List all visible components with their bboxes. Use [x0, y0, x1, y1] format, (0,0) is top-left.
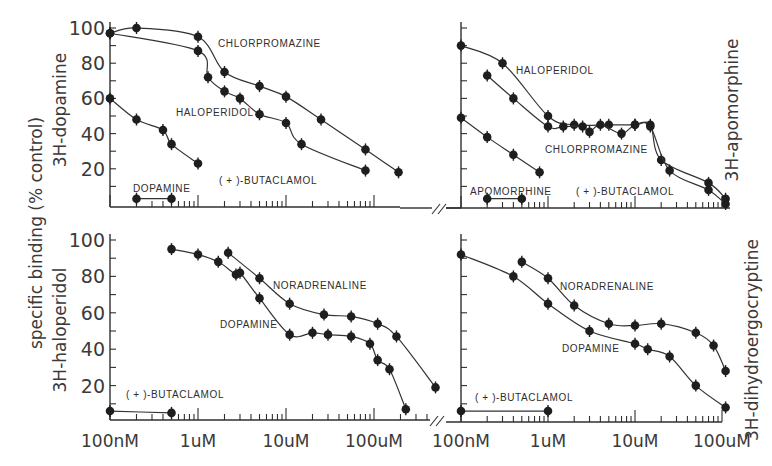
series-butaclamol: ( + )-BUTACLAMOL	[457, 392, 573, 417]
curve-label: DOPAMINE	[220, 319, 277, 330]
x-tick-label: 1uM	[180, 431, 216, 451]
axis-break-top	[432, 204, 446, 214]
data-point	[308, 329, 317, 338]
series-haloperidol: HALOPERIDOL	[106, 27, 370, 176]
curve-label: DOPAMINE	[133, 183, 190, 194]
data-point	[402, 405, 411, 414]
curve-label: ( + )-BUTACLAMOL	[126, 389, 224, 400]
data-point	[167, 409, 176, 418]
panel-top-right: 3H-apomorphineHALOPERIDOLCHLORPROMAZINE(…	[446, 22, 742, 210]
fit-curve	[522, 262, 726, 371]
data-point	[509, 94, 518, 103]
data-point	[570, 301, 579, 310]
curve-label: HALOPERIDOL	[176, 107, 254, 118]
data-point	[297, 140, 306, 149]
data-point	[167, 194, 176, 203]
curve-label: APOMORPHINE	[470, 186, 552, 197]
x-tick-label: 100uM	[345, 431, 403, 451]
data-point	[236, 268, 245, 277]
data-point	[657, 319, 666, 328]
data-point	[106, 29, 115, 38]
data-point	[596, 121, 605, 130]
panel-bottom-right: 100nM1uM10uM100uM3H-dihydroergocryptineN…	[432, 234, 762, 451]
curve-label: NORADRENALINE	[273, 280, 367, 291]
data-point	[709, 341, 718, 350]
data-point	[509, 150, 518, 159]
data-point	[631, 339, 640, 348]
data-point	[361, 145, 370, 154]
fit-curve	[487, 76, 725, 204]
panel-top-left: 100806040203H-dopamineCHLORPROMAZINEHALO…	[50, 17, 432, 208]
y-axis-title: specific binding (% control)	[26, 117, 46, 349]
data-point	[457, 41, 466, 50]
data-point	[224, 248, 233, 257]
data-point	[643, 345, 652, 354]
data-point	[721, 200, 730, 209]
data-point	[282, 119, 291, 128]
data-point	[483, 71, 492, 80]
data-point	[194, 159, 203, 168]
data-point	[255, 82, 264, 91]
data-point	[347, 312, 356, 321]
curve-label: NORADRENALINE	[560, 281, 654, 292]
data-point	[457, 113, 466, 122]
data-point	[544, 407, 553, 416]
data-point	[373, 319, 382, 328]
y-tick-label: 80	[81, 265, 105, 287]
curve-label: DOPAMINE	[562, 343, 619, 354]
data-point	[167, 245, 176, 254]
radioligand-label: 3H-dihydroergocryptine	[742, 239, 762, 441]
radioligand-label: 3H-apomorphine	[722, 39, 742, 182]
data-point	[692, 329, 701, 338]
data-point	[236, 94, 245, 103]
data-point	[194, 33, 203, 42]
panel-bottom-left: 10080604020100nM1uM10uM100uM3H-haloperid…	[50, 229, 440, 451]
data-point	[220, 87, 229, 96]
data-point	[320, 310, 329, 319]
data-point	[721, 403, 730, 412]
fit-curve	[461, 118, 540, 173]
data-point	[324, 330, 333, 339]
series-chlorpromazine: CHLORPROMAZINE	[106, 22, 403, 178]
curve-label: ( + )-BUTACLAMOL	[475, 392, 573, 403]
data-point	[605, 319, 614, 328]
data-point	[665, 352, 674, 361]
data-point	[194, 47, 203, 56]
y-tick-label: 100	[69, 229, 105, 251]
data-point	[214, 258, 223, 267]
data-point	[132, 24, 141, 33]
data-point	[394, 168, 403, 177]
radioligand-label: 3H-haloperidol	[50, 268, 70, 393]
data-point	[373, 356, 382, 365]
data-point	[285, 330, 294, 339]
data-point	[106, 407, 115, 416]
data-point	[585, 128, 594, 137]
curve-label: HALOPERIDOL	[516, 65, 594, 76]
data-point	[509, 272, 518, 281]
fit-curve	[110, 411, 172, 413]
radioligand-label: 3H-dopamine	[50, 53, 70, 168]
x-tick-label: 100nM	[81, 431, 139, 451]
series-dopamine: DOPAMINE	[132, 183, 190, 205]
data-point	[483, 133, 492, 142]
data-point	[132, 194, 141, 203]
curve-label: ( + )-BUTACLAMOL	[219, 175, 317, 186]
curve-label: CHLORPROMAZINE	[218, 38, 321, 49]
data-point	[285, 299, 294, 308]
data-point	[646, 122, 655, 131]
data-point	[106, 94, 115, 103]
y-tick-label: 20	[81, 375, 105, 397]
data-point	[457, 407, 466, 416]
data-point	[255, 110, 264, 119]
y-tick-label: 40	[81, 338, 105, 360]
y-tick-label: 80	[81, 52, 105, 74]
data-point	[692, 381, 701, 390]
data-point	[544, 122, 553, 131]
data-point	[498, 59, 507, 68]
data-point	[132, 115, 141, 124]
x-tick-label: 10uM	[611, 431, 658, 451]
data-point	[366, 339, 375, 348]
fit-curve	[172, 249, 406, 409]
fit-curve	[110, 28, 399, 172]
data-point	[570, 121, 579, 130]
